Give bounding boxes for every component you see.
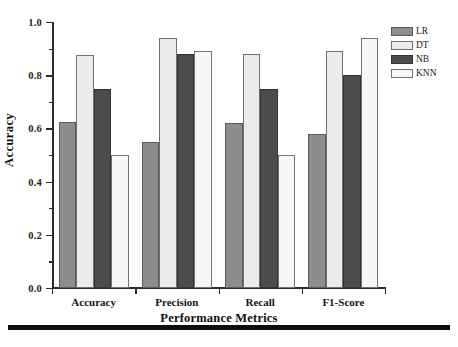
legend-swatch-dt xyxy=(391,41,413,50)
legend-label: LR xyxy=(416,27,428,37)
bar-f1-score-knn xyxy=(361,38,379,288)
x-tick-mark xyxy=(302,288,303,294)
bar-recall-dt xyxy=(243,54,261,288)
bar-f1-score-nb xyxy=(343,75,361,288)
bar-recall-nb xyxy=(260,89,278,289)
bar-f1-score-lr xyxy=(308,134,326,288)
bar-f1-score-dt xyxy=(326,51,344,288)
x-tick-mark xyxy=(385,288,386,294)
x-axis-title: Performance Metrics xyxy=(52,311,386,326)
x-tick-mark xyxy=(135,288,136,294)
bar-precision-lr xyxy=(142,142,160,288)
legend-label: DT xyxy=(416,41,429,51)
y-tick-label: 0.2 xyxy=(28,229,42,240)
legend-swatch-knn xyxy=(391,69,413,78)
legend-label: KNN xyxy=(416,69,437,79)
legend-label: NB xyxy=(416,55,429,65)
legend-swatch-lr xyxy=(391,27,413,36)
page-separator-rule xyxy=(8,325,450,330)
bar-accuracy-dt xyxy=(76,55,94,288)
bar-recall-knn xyxy=(278,155,296,288)
x-tick-label-recall: Recall xyxy=(245,296,274,308)
x-tick-label-f1-score: F1-Score xyxy=(322,296,364,308)
bar-precision-knn xyxy=(194,51,212,288)
bar-precision-nb xyxy=(177,54,195,288)
legend-item-dt: DT xyxy=(391,39,457,53)
y-tick-label: 0.8 xyxy=(28,70,42,81)
legend-item-nb: NB xyxy=(391,53,457,67)
y-tick-label: 0.0 xyxy=(28,283,42,294)
x-tick-mark xyxy=(219,288,220,294)
y-axis-title: Accuracy xyxy=(2,113,22,167)
y-tick-label: 1.0 xyxy=(28,17,42,28)
chart-legend: LRDTNBKNN xyxy=(391,25,457,81)
bar-accuracy-knn xyxy=(111,155,129,288)
x-tick-label-precision: Precision xyxy=(155,296,198,308)
x-tick-mark xyxy=(52,288,53,294)
legend-item-knn: KNN xyxy=(391,67,457,81)
figure-canvas: Accuracy 0.00.20.40.60.81.0 AccuracyPrec… xyxy=(0,0,458,347)
bar-precision-dt xyxy=(159,38,177,288)
bar-accuracy-lr xyxy=(59,122,77,288)
legend-swatch-nb xyxy=(391,55,413,64)
plot-area xyxy=(52,22,385,288)
bar-recall-lr xyxy=(225,123,243,288)
x-tick-label-accuracy: Accuracy xyxy=(71,296,116,308)
y-tick-label: 0.6 xyxy=(28,123,42,134)
y-tick-label: 0.4 xyxy=(28,176,42,187)
legend-item-lr: LR xyxy=(391,25,457,39)
bar-accuracy-nb xyxy=(94,89,112,289)
